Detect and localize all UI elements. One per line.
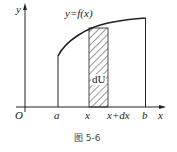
y-axis-label: y bbox=[16, 4, 21, 15]
figure-caption: 图 5-6 bbox=[74, 133, 101, 143]
y-axis bbox=[23, 3, 27, 112]
hatched-strip bbox=[89, 28, 108, 107]
origin-label: O bbox=[15, 110, 23, 121]
tick-label-x-plus-dx: x+dx bbox=[107, 110, 130, 121]
curve-label: y=f(x) bbox=[65, 8, 93, 19]
tick-label-x: x bbox=[85, 110, 90, 121]
tick-label-b: b bbox=[142, 110, 148, 121]
tick-label-a: a bbox=[54, 110, 60, 121]
diagram-graphic bbox=[0, 0, 177, 152]
strip-label: dU bbox=[91, 74, 106, 85]
x-axis-label: x bbox=[158, 110, 163, 121]
figure: y y=f(x) dU O a x x+dx b x 图 5-6 bbox=[0, 0, 177, 152]
